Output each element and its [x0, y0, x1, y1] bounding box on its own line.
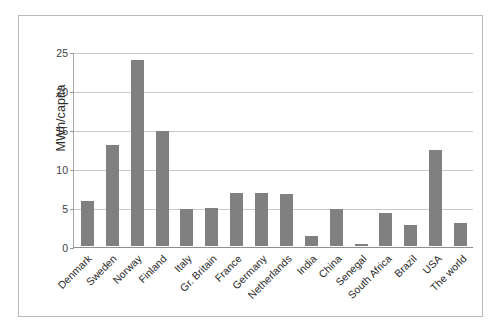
chart-frame: MWh/capita 0510152025 DenmarkSwedenNorwa…: [18, 15, 483, 317]
bar: [330, 209, 343, 246]
x-label-slot: South Africa: [373, 249, 398, 319]
bar-slot: [175, 53, 200, 246]
bar: [355, 244, 368, 246]
bar: [156, 131, 169, 246]
bar: [180, 209, 193, 246]
bar-slot: [150, 53, 175, 246]
y-axis-tick-label: 25: [56, 48, 68, 59]
bar: [280, 194, 293, 246]
bar-slot: [199, 53, 224, 246]
y-axis-tick-label: 20: [56, 87, 68, 98]
bar-slot: [374, 53, 399, 246]
y-axis-tick-mark: [70, 131, 74, 132]
bar: [305, 236, 318, 246]
bar: [379, 213, 392, 246]
bar-slot: [448, 53, 473, 246]
x-axis-tick-label: Denmark: [55, 253, 93, 291]
y-axis-tick-mark: [70, 170, 74, 171]
bar: [454, 223, 467, 246]
x-label-slot: Gr. Britain: [198, 249, 223, 319]
plot-area: 0510152025: [73, 53, 473, 248]
bar-slot: [75, 53, 100, 246]
y-axis-tick-label: 5: [62, 204, 68, 215]
y-axis-tick-mark: [70, 209, 74, 210]
bar-slot: [423, 53, 448, 246]
bar: [255, 193, 268, 246]
bar: [205, 208, 218, 246]
bar-slot: [100, 53, 125, 246]
bar-slot: [398, 53, 423, 246]
x-axis-tick-label: India: [294, 253, 318, 277]
y-axis-tick-label: 10: [56, 165, 68, 176]
bar-slot: [349, 53, 374, 246]
y-axis-tick-label: 15: [56, 126, 68, 137]
y-axis-tick-mark: [70, 53, 74, 54]
x-label-slot: Finland: [148, 249, 173, 319]
y-axis-tick-mark: [70, 92, 74, 93]
x-label-slot: Netherlands: [273, 249, 298, 319]
bar-slot: [249, 53, 274, 246]
x-label-slot: The world: [448, 249, 473, 319]
bar-slot: [324, 53, 349, 246]
bar-slot: [125, 53, 150, 246]
bar-slot: [274, 53, 299, 246]
x-label-slot: Brazil: [398, 249, 423, 319]
bar: [106, 145, 119, 246]
bar: [131, 60, 144, 246]
y-axis-tick-label: 0: [62, 243, 68, 254]
bar-slot: [224, 53, 249, 246]
x-label-slot: India: [298, 249, 323, 319]
bar: [81, 201, 94, 246]
x-axis-labels: DenmarkSwedenNorwayFinlandItalyGr. Brita…: [73, 249, 473, 319]
bar: [230, 193, 243, 246]
bar-series: [75, 53, 473, 246]
bar-slot: [299, 53, 324, 246]
bar: [429, 150, 442, 246]
bar: [404, 225, 417, 246]
